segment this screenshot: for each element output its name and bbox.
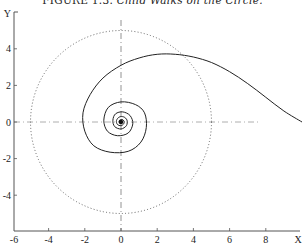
x-axis-label: X (294, 234, 302, 245)
child-path-spiral (83, 54, 302, 153)
x-tick-label: 2 (155, 234, 160, 245)
y-axis-label: Y (4, 8, 11, 19)
spiral-center (119, 120, 123, 124)
x-tick-label: -4 (44, 234, 52, 245)
y-tick-label: 0 (6, 117, 11, 128)
y-tick-label: 2 (6, 80, 11, 91)
x-tick-label: -2 (81, 234, 89, 245)
reference-lines (14, 20, 260, 231)
axes: -6-4-202468X-4-2024Y (3, 8, 303, 245)
y-tick-label: -2 (3, 153, 11, 164)
plot-area: -6-4-202468X-4-2024Y (0, 0, 305, 245)
x-tick-label: 8 (263, 234, 268, 245)
y-tick-label: -4 (3, 190, 11, 201)
x-tick-label: 0 (119, 234, 124, 245)
x-tick-label: 4 (191, 234, 196, 245)
y-tick-label: 4 (6, 43, 11, 54)
x-tick-label: -6 (10, 234, 18, 245)
x-tick-label: 6 (227, 234, 232, 245)
